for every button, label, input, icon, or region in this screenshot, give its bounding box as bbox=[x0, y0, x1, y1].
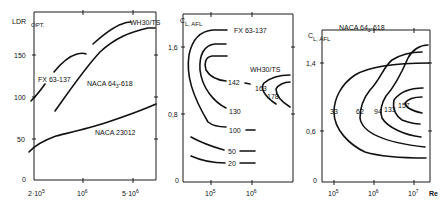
contour-naca-62 bbox=[360, 52, 425, 147]
panel1-ylabel-sub: OPT. bbox=[31, 22, 45, 28]
label-wh30ts: WH30/TS bbox=[250, 66, 281, 73]
contour-fx-142 bbox=[205, 56, 227, 81]
panel3-ytick-label: 0,6 bbox=[306, 128, 316, 135]
contour-fx-142-tail bbox=[245, 83, 250, 84]
panel3-xtick-label: 107 bbox=[408, 188, 419, 197]
panel1-xtick-label: 2·105 bbox=[28, 188, 45, 197]
curve-fx63-137-upper bbox=[54, 53, 86, 72]
label-contour-100: 100 bbox=[229, 127, 241, 134]
panel3-ytick-label: 1,4 bbox=[306, 60, 316, 67]
label-contour-20: 20 bbox=[228, 160, 236, 167]
panel3-ytick-label: 0 bbox=[313, 177, 317, 184]
panel2-ytick-label: 1,6 bbox=[168, 44, 178, 51]
figure: LDR OPT. 150 100 50 0 2·105 106 5·106 FX… bbox=[0, 0, 447, 208]
label-contour-130: 130 bbox=[229, 108, 241, 115]
panel1-ylabel: LDR bbox=[12, 18, 26, 25]
contour-fx-20 bbox=[191, 156, 225, 163]
label-fx63-137: FX 63-137 bbox=[38, 76, 71, 83]
label-contour-142: 142 bbox=[228, 79, 240, 86]
panel3-xtick-label: 106 bbox=[368, 188, 379, 197]
panel1-xtick-label: 106 bbox=[77, 188, 88, 197]
panel1-ytick-label: 100 bbox=[14, 94, 26, 101]
contour-fx-130 bbox=[200, 44, 226, 108]
label-contour-50: 50 bbox=[228, 148, 236, 155]
label-naca64-618: NACA 643-618 bbox=[87, 80, 133, 89]
label-wh30ts: WH30/TS bbox=[130, 19, 161, 26]
label-fx63-137: FX 63-137 bbox=[234, 27, 267, 34]
panel1-ytick-label: 50 bbox=[17, 136, 25, 143]
panel-fx-wh-contours: C L, AFL 1,6 0,8 0 105 106 FX 63-137 WH3… bbox=[168, 12, 295, 197]
curve-wh30ts bbox=[93, 22, 131, 44]
label-naca23012: NACA 23012 bbox=[95, 129, 136, 136]
panel1-xtick-label: 5·106 bbox=[122, 188, 139, 197]
panel2-ylabel-sub: L, AFL bbox=[185, 21, 203, 27]
chart-canvas: LDR OPT. 150 100 50 0 2·105 106 5·106 FX… bbox=[0, 0, 447, 208]
panel1-frame bbox=[34, 12, 156, 180]
label-contour-62: 62 bbox=[356, 108, 364, 115]
panel3-xlabel: Re bbox=[429, 190, 438, 197]
label-contour-157: 157 bbox=[398, 102, 410, 109]
label-contour-163: 163 bbox=[255, 85, 267, 92]
contour-fx-50 bbox=[191, 137, 224, 150]
curve-naca23012 bbox=[29, 104, 156, 152]
panel-naca-contours: C L, AFL 1,4 0,6 0 105 106 107 Re NACA 6… bbox=[306, 24, 438, 197]
panel2-ytick-label: 0,8 bbox=[168, 111, 178, 118]
label-contour-178: 178 bbox=[267, 93, 279, 100]
curve-naca64-618 bbox=[55, 28, 155, 111]
panel1-ytick-label: 150 bbox=[14, 52, 26, 59]
panel1-ytick-label: 0 bbox=[22, 176, 26, 183]
label-contour-133: 133 bbox=[384, 106, 396, 113]
label-naca64-618: NACA 643-618 bbox=[339, 24, 385, 33]
panel3-ylabel-sub: L, AFL bbox=[313, 36, 331, 42]
label-contour-94: 94 bbox=[374, 108, 382, 115]
panel2-ytick-label: 0 bbox=[175, 177, 179, 184]
curve-fx63-137 bbox=[31, 84, 45, 101]
panel-ldr-opt: LDR OPT. 150 100 50 0 2·105 106 5·106 FX… bbox=[12, 10, 161, 197]
panel2-xtick-label: 106 bbox=[246, 188, 257, 197]
panel2-xtick-label: 105 bbox=[205, 188, 216, 197]
panel3-xtick-label: 105 bbox=[328, 188, 339, 197]
label-contour-33: 33 bbox=[330, 108, 338, 115]
